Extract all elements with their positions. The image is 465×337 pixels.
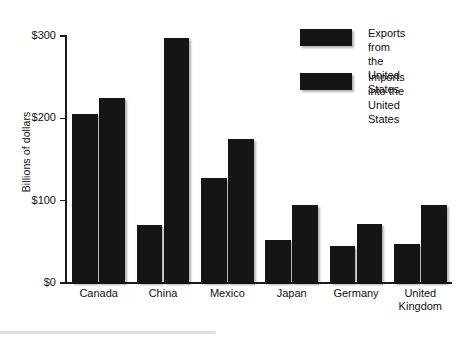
y-tick-label: $200	[0, 112, 56, 123]
bar-chart: Billions of dollars $0$100$200$300 Canad…	[0, 0, 465, 337]
bar	[164, 38, 190, 283]
legend-swatch-exports	[300, 29, 352, 46]
bar	[201, 178, 227, 283]
bar	[265, 240, 291, 283]
bar	[137, 225, 163, 283]
bar	[330, 246, 356, 283]
bar	[357, 224, 383, 283]
bar	[72, 114, 98, 283]
y-tick-label: $100	[0, 195, 56, 206]
y-tick-label: $300	[0, 30, 56, 41]
legend-label-imports: Imports into the United States	[368, 70, 405, 126]
bar	[421, 205, 447, 283]
x-axis-label: United Kingdom	[380, 287, 460, 312]
bar	[99, 98, 125, 283]
y-tick-label: $0	[0, 277, 56, 288]
bar	[394, 244, 420, 283]
bar	[292, 205, 318, 283]
bar	[228, 139, 254, 283]
legend-swatch-imports	[300, 73, 352, 90]
scan-artifact	[0, 331, 465, 334]
